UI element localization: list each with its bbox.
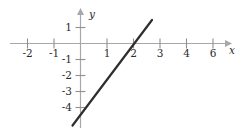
plot-canvas: -2 -1 1 2 3 4 6 1 -1 -2 -3 -4 x y [0, 0, 242, 135]
line-series-y-equals-2x-minus-4 [73, 20, 153, 126]
x-tick-label-4: 4 [183, 47, 190, 59]
x-tick-label-6: 6 [210, 47, 217, 59]
x-tick-label-3: 3 [157, 47, 164, 59]
y-tick-label--2: -2 [62, 69, 72, 81]
y-tick-label--3: -3 [62, 85, 72, 97]
y-tick-label--1: -1 [62, 53, 72, 65]
x-tick-label-1: 1 [104, 47, 111, 59]
y-tick-label-1: 1 [65, 21, 72, 33]
y-axis-label: y [88, 8, 96, 20]
coordinate-plane-figure: -2 -1 1 2 3 4 6 1 -1 -2 -3 -4 x y [0, 0, 242, 135]
x-tick-label--1: -1 [49, 47, 59, 59]
x-tick-label--2: -2 [22, 47, 32, 59]
x-axis-label: x [229, 44, 235, 56]
y-tick-label--4: -4 [62, 101, 73, 113]
